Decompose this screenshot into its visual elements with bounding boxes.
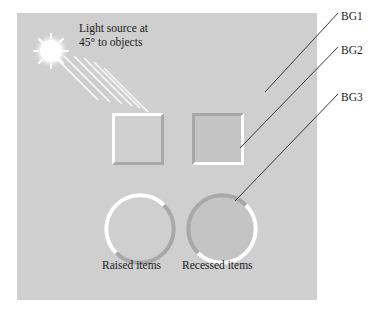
recessed-items-label: Recessed items: [182, 259, 253, 271]
figure-root: Light source at 45° to objects Raised it…: [0, 0, 381, 324]
callout-label-bg1: BG1: [341, 10, 363, 22]
surface-panel: [17, 13, 317, 300]
callout-label-bg2: BG2: [341, 44, 363, 56]
light-source-caption: Light source at 45° to objects: [79, 21, 199, 49]
raised-items-label: Raised items: [102, 259, 161, 271]
raised-square: [112, 113, 164, 165]
recessed-square: [192, 113, 244, 165]
callout-label-bg3: BG3: [341, 91, 363, 103]
